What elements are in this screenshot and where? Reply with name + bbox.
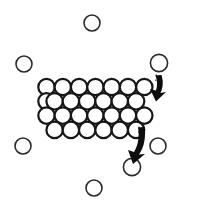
cluster-circle — [95, 122, 111, 138]
cluster-circle — [46, 122, 62, 138]
free-circle-left-upper — [16, 56, 32, 72]
free-circle-left-lower — [15, 138, 31, 154]
free-circle-right-upper — [150, 54, 167, 71]
free-circle-top — [84, 15, 100, 31]
cluster-group — [38, 79, 152, 138]
cluster-circle — [79, 122, 95, 138]
cluster-circle — [63, 122, 79, 138]
free-circle-bottom — [86, 180, 102, 196]
figure-canvas — [0, 0, 206, 211]
free-circle-right-lower — [150, 138, 166, 154]
cluster-circle — [112, 122, 128, 138]
particle-cluster-figure — [0, 0, 206, 211]
